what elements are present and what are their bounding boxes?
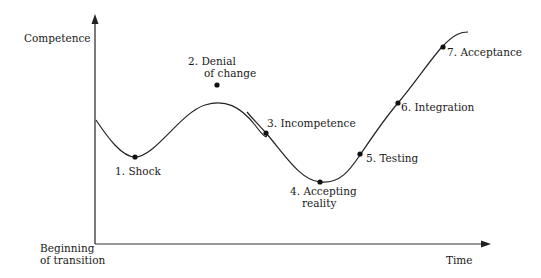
stage-marker-6: [395, 100, 400, 105]
stage-label-1: 1. Shock: [115, 165, 161, 177]
y-axis-label: Competence: [24, 32, 91, 44]
stage-marker-5: [357, 151, 362, 156]
stage-label-6: 6. Integration: [401, 101, 474, 113]
stage-marker-4: [317, 179, 322, 184]
stage-marker-7: [440, 44, 445, 49]
origin-label-line1: Beginning: [40, 242, 94, 254]
stage-marker-1: [132, 154, 137, 159]
stage-label-3: 3. Incompetence: [267, 117, 356, 129]
stage-marker-2: [214, 82, 219, 87]
stage-label-4: 4. Accepting: [290, 185, 357, 197]
x-axis-arrow-icon: [481, 241, 491, 248]
stage-label-2-line2: of change: [204, 67, 256, 79]
y-axis-arrow-icon: [92, 14, 99, 24]
x-axis-label: Time: [446, 254, 473, 266]
stage-label-7: 7. Acceptance: [447, 46, 522, 58]
stage-marker-3: [263, 130, 268, 135]
origin-label-line2: of transition: [40, 254, 105, 266]
stage-label-5: 5. Testing: [366, 152, 418, 164]
stage-label-2: 2. Denial: [188, 55, 236, 67]
stage-label-4-line2: reality: [302, 197, 336, 209]
